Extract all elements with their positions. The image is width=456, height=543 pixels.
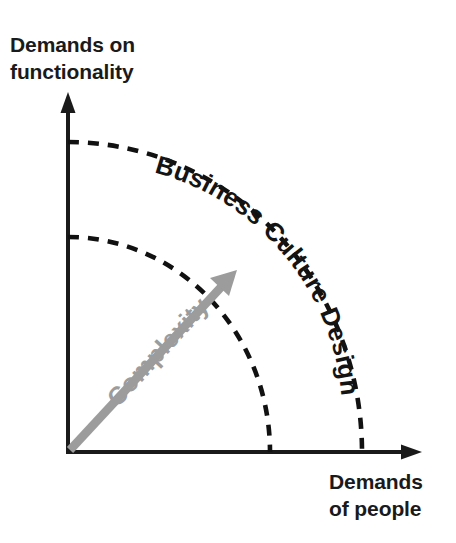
complexity-label: Complexity (101, 292, 214, 412)
diagram-canvas: Demands on functionality Demands of peop… (0, 0, 456, 543)
x-axis-label-line1: Demands (329, 470, 423, 493)
x-axis-label-line2: of people (329, 497, 421, 520)
diagram-svg: Demands on functionality Demands of peop… (0, 0, 456, 543)
arrow-up-icon (61, 92, 76, 113)
y-axis-label-line2: functionality (10, 60, 134, 83)
y-axis-label-line1: Demands on (10, 33, 135, 56)
arrow-right-icon (401, 445, 422, 460)
